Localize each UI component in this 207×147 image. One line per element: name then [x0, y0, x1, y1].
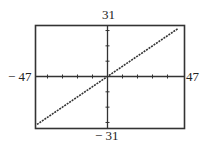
xmax-label: 47	[186, 70, 199, 83]
ymin-label: − 31	[95, 129, 119, 142]
ymax-label: 31	[102, 8, 115, 21]
axes	[36, 26, 184, 128]
xmin-label: − 47	[8, 70, 32, 83]
